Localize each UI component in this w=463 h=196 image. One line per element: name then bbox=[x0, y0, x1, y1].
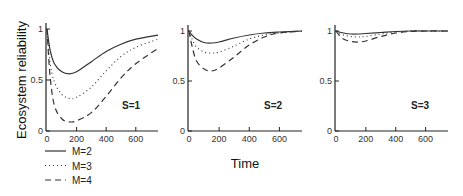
y-tick-label: 0.5 bbox=[319, 76, 332, 86]
panel-label: S=1 bbox=[122, 100, 141, 111]
y-axis-title: Ecosystem reliability bbox=[14, 21, 29, 139]
x-tick-label: 400 bbox=[242, 134, 257, 144]
series-line-m4 bbox=[189, 31, 302, 71]
x-tick-label: 600 bbox=[128, 134, 143, 144]
legend-label: M=3 bbox=[72, 161, 92, 172]
y-tick-label: 1 bbox=[327, 26, 332, 36]
x-tick-label: 200 bbox=[358, 134, 373, 144]
series-line-m4 bbox=[336, 31, 448, 42]
panel-label: S=2 bbox=[264, 100, 283, 111]
x-tick-label: 0 bbox=[333, 134, 338, 144]
y-tick-label: 1 bbox=[38, 24, 43, 34]
series-line-m2 bbox=[47, 29, 158, 74]
y-tick-label: 0.5 bbox=[30, 75, 43, 85]
panel-s2: 00.510200400600S=2 bbox=[172, 25, 302, 144]
y-tick-label: 0.5 bbox=[172, 76, 185, 86]
x-tick-label: 400 bbox=[99, 134, 114, 144]
x-tick-label: 600 bbox=[272, 134, 287, 144]
series-line-m3 bbox=[47, 29, 158, 99]
x-tick-label: 400 bbox=[388, 134, 403, 144]
panel-s3: 00.510200400600S=3 bbox=[319, 25, 448, 144]
y-tick-label: 1 bbox=[180, 26, 185, 36]
series-line-m4 bbox=[47, 29, 158, 122]
legend-label: M=4 bbox=[72, 175, 92, 186]
x-tick-label: 200 bbox=[212, 134, 227, 144]
x-tick-label: 0 bbox=[186, 134, 191, 144]
x-axis-title: Time bbox=[231, 156, 259, 171]
x-tick-label: 600 bbox=[418, 134, 433, 144]
legend-label: M=2 bbox=[72, 146, 92, 157]
panel-label: S=3 bbox=[411, 100, 430, 111]
panel-s1: 00.510200400600S=1 bbox=[30, 23, 158, 144]
series-line-m3 bbox=[189, 31, 302, 53]
y-tick-label: 0 bbox=[180, 126, 185, 136]
figure: 00.510200400600S=100.510200400600S=200.5… bbox=[0, 0, 463, 196]
x-tick-label: 200 bbox=[69, 134, 84, 144]
y-tick-label: 0 bbox=[38, 126, 43, 136]
y-tick-label: 0 bbox=[327, 126, 332, 136]
legend: M=2M=3M=4 bbox=[45, 146, 92, 186]
x-tick-label: 0 bbox=[44, 134, 49, 144]
